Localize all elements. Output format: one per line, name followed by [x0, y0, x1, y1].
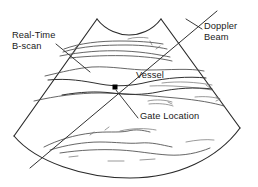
echo-line-upper-3: [60, 51, 170, 57]
echo-dash-deep-4: [186, 140, 214, 142]
vessel-wall-upper: [48, 77, 206, 86]
leader-line-bscan: [56, 44, 90, 72]
echo-tick-deep-1: [105, 127, 109, 130]
tissue-echo-texture: [34, 37, 224, 161]
echo-blob-center-2: [149, 104, 173, 106]
label-real-time-bscan-line2: B-scan: [12, 41, 55, 52]
vessel-outline: [48, 77, 212, 95]
ultrasound-sector-diagram: Real-Time B-scan Doppler Beam Vessel Gat…: [0, 0, 258, 187]
label-doppler-beam-line1: Doppler: [204, 21, 237, 32]
gate-location-marker: [113, 85, 118, 90]
echo-line-right-1: [162, 82, 212, 85]
echo-dash-deep-1: [69, 156, 78, 157]
label-gate-location-text: Gate Location: [140, 111, 199, 122]
label-vessel-text: Vessel: [136, 70, 164, 81]
echo-tick-center-1: [168, 102, 172, 104]
echo-blob-center-1: [148, 100, 172, 102]
echo-blob-upper-1: [128, 37, 148, 39]
label-gate-location: Gate Location: [140, 111, 199, 122]
echo-deep-3: [60, 148, 210, 155]
echo-tick-upper-3: [150, 41, 152, 45]
label-vessel: Vessel: [136, 70, 164, 81]
label-doppler-beam-line2: Beam: [204, 32, 237, 43]
echo-line-upper-4: [70, 56, 172, 61]
echo-deep-2: [50, 142, 172, 150]
label-real-time-bscan: Real-Time B-scan: [12, 30, 55, 52]
sector-top-arc: [97, 19, 161, 35]
leader-line-doppler: [186, 19, 202, 29]
echo-deep-1: [44, 130, 150, 147]
vessel-wall-lower: [62, 88, 212, 95]
echo-dash-deep-3: [140, 159, 155, 160]
label-real-time-bscan-line1: Real-Time: [12, 30, 55, 41]
echo-arc-mid-1: [45, 67, 204, 76]
label-doppler-beam: Doppler Beam: [204, 21, 237, 43]
